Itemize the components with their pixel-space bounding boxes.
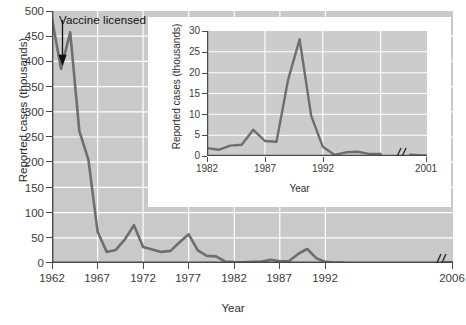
main-x-tickmark-1982 [234,263,235,269]
inset-x-tick-label-2001: 2001 [401,163,451,174]
measles-reported-cases-figure: Reported cases (thousands) 0 50 100 150 … [0,0,466,325]
vaccine-licensed-arrow [59,20,65,64]
main-x-tickmark-1972 [143,263,144,269]
inset-chart: Reported cases (thousands) 0 5 10 15 20 … [148,17,451,207]
main-y-tick-450: 450 [2,30,44,42]
main-y-tick-50: 50 [2,232,44,244]
inset-data-line [207,39,381,155]
inset-x-tickmark-1992 [323,157,324,162]
inset-y-tick-20: 20 [162,67,200,78]
inset-series-canvas [207,31,427,156]
main-y-tick-300: 300 [2,106,44,118]
inset-plot-area [207,31,427,156]
inset-x-tickmark-2001 [426,157,427,162]
inset-y-tick-30: 30 [162,25,200,36]
inset-y-tick-15: 15 [162,88,200,99]
main-y-tick-150: 150 [2,182,44,194]
main-x-tickmark-1987 [279,263,280,269]
main-x-tickmark-2006 [452,263,453,269]
inset-x-tick-label-1982: 1982 [182,163,232,174]
inset-x-tick-label-1987: 1987 [240,163,290,174]
main-y-tick-0: 0 [2,257,44,269]
main-x-tick-label-1992: 1992 [295,272,355,284]
inset-x-axis-title: Year [148,183,451,194]
main-y-tick-200: 200 [2,156,44,168]
main-y-tick-400: 400 [2,55,44,67]
main-y-tick-500: 500 [2,5,44,17]
main-x-tickmark-1977 [188,263,189,269]
main-x-tickmark-1992 [325,263,326,269]
main-y-tick-100: 100 [2,207,44,219]
main-x-axis-title: Year [0,302,466,314]
inset-horizontal-gridlines [207,52,427,135]
inset-y-tick-10: 10 [162,109,200,120]
main-y-tick-250: 250 [2,131,44,143]
main-x-tick-label-2006: 2006 [422,272,466,284]
main-x-tickmark-1962 [52,263,53,269]
inset-x-tickmark-1982 [207,157,208,162]
inset-y-tick-0: 0 [162,150,200,161]
inset-x-tickmark-1987 [265,157,266,162]
vaccine-licensed-label: Vaccine licensed [59,14,146,26]
inset-x-tick-label-1992: 1992 [298,163,348,174]
inset-y-tick-5: 5 [162,129,200,140]
main-x-tickmark-1967 [97,263,98,269]
inset-y-tick-25: 25 [162,46,200,57]
main-y-tick-350: 350 [2,81,44,93]
